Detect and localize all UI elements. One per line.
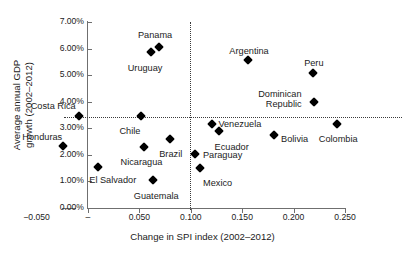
reference-line-vertical [190, 22, 191, 210]
x-tick-label: – [63, 213, 113, 222]
data-point-label: DominicanRepublic [258, 89, 301, 109]
x-tick-label: 0.100 [166, 213, 216, 222]
data-point-label: Bolivia [281, 134, 308, 144]
x-tick-label: 0.150 [217, 213, 267, 222]
y-tick-mark [88, 22, 92, 23]
data-point-marker[interactable] [308, 68, 318, 78]
data-point-label: Chile [119, 126, 140, 136]
y-tick-mark [88, 102, 92, 103]
data-point-label: Brazil [159, 149, 182, 159]
y-tick-label: 6.00% [40, 44, 84, 53]
y-tick-mark [88, 49, 92, 50]
y-tick-mark [88, 155, 92, 156]
data-point-marker[interactable] [195, 163, 205, 173]
data-point-marker[interactable] [137, 111, 147, 121]
data-point-label: Costa Rica [31, 101, 76, 111]
data-point-label: Mexico [203, 178, 232, 188]
y-tick-label: 2.00% [40, 150, 84, 159]
y-tick-mark [88, 75, 92, 76]
y-tick-label: 0.00% [40, 203, 84, 212]
reference-line-horizontal [64, 117, 402, 118]
y-axis-title-line-2: growth (2002–2012) [23, 20, 35, 190]
x-axis-title: Change in SPI index (2002–2012) [0, 231, 405, 242]
y-axis-title: Average annual GDP growth (2002–2012) [11, 20, 35, 190]
data-point-label-line: Republic [258, 99, 301, 109]
x-tick-label: −0.050 [12, 213, 62, 222]
y-tick-mark [88, 128, 92, 129]
x-tick-label: 0.200 [269, 213, 319, 222]
data-point-label-line: Dominican [258, 89, 301, 99]
data-point-marker[interactable] [146, 47, 156, 57]
data-point-label: Uruguay [128, 63, 163, 73]
data-point-label: El Salvador [89, 175, 136, 185]
data-point-marker[interactable] [139, 142, 149, 152]
y-tick-label: 5.00% [40, 70, 84, 79]
data-point-marker[interactable] [309, 97, 319, 107]
data-point-label: Argentina [229, 46, 268, 56]
data-point-marker[interactable] [148, 175, 158, 185]
data-point-label: Peru [304, 58, 323, 68]
data-point-marker[interactable] [154, 42, 164, 52]
data-point-label: Nicaragua [121, 157, 163, 167]
data-point-label: Ecuador [215, 142, 249, 152]
x-tick-label: 0.250 [320, 213, 370, 222]
y-axis-title-line-1: Average annual GDP [11, 20, 23, 190]
data-point-label: Venezuela [218, 119, 261, 129]
data-point-marker[interactable] [332, 119, 342, 129]
data-point-marker[interactable] [269, 130, 279, 140]
y-tick-label: 3.00% [40, 123, 84, 132]
y-tick-label: 1.00% [40, 176, 84, 185]
data-point-label: Panama [138, 30, 172, 40]
data-point-label: Colombia [319, 134, 358, 144]
data-point-marker[interactable] [74, 111, 84, 121]
x-axis-line [87, 208, 346, 209]
data-point-label: Guatemala [134, 191, 179, 201]
data-point-marker[interactable] [93, 162, 103, 172]
data-point-marker[interactable] [243, 55, 253, 65]
data-point-marker[interactable] [190, 149, 200, 159]
x-tick-label: 0.050 [114, 213, 164, 222]
data-point-marker[interactable] [165, 134, 175, 144]
y-tick-label: 7.00% [40, 17, 84, 26]
scatter-plot: 0.00%1.00%2.00%3.00%4.00%5.00%6.00%7.00%… [0, 0, 405, 255]
